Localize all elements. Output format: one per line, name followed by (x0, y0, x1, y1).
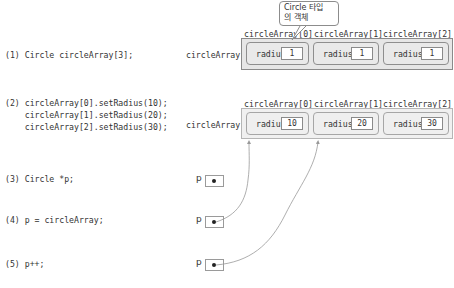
arrow-p-to-element-1 (216, 142, 318, 265)
callout-tail (292, 26, 306, 40)
arrow-p-to-element-0 (216, 142, 249, 222)
pointer-arrows (0, 0, 454, 288)
